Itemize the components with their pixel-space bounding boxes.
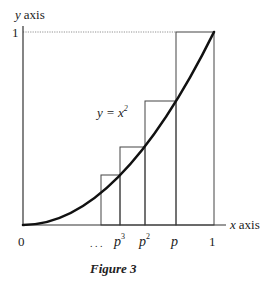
figure-3-diagram: yaxis 1 y = x2 0 . . . p3 p2 p 1 xaxis F… [0, 0, 273, 281]
rectangle-p-1 [176, 32, 214, 225]
curve-label-text: y = x [95, 105, 124, 120]
x-tick-p: p [170, 234, 178, 249]
parabola-curve [23, 32, 214, 225]
rectangle-p3-p2 [120, 147, 145, 225]
x-tick-one: 1 [209, 234, 216, 249]
x-tick-p3: p3 [113, 232, 125, 249]
x-axis-label: xaxis [229, 217, 260, 232]
y-tick-one: 1 [12, 25, 19, 40]
curve-label-exponent: 2 [124, 104, 128, 113]
origin-label: 0 [18, 234, 25, 249]
x-tick-dots: . . . [90, 238, 103, 249]
x-tick-p2: p2 [138, 232, 150, 249]
figure-caption: Figure 3 [89, 261, 137, 276]
y-axis-label: yaxis [13, 7, 45, 22]
rectangle-p4-p3 [101, 175, 120, 225]
rectangle-p2-p [145, 101, 176, 225]
curve-label: y = x2 [95, 104, 128, 120]
